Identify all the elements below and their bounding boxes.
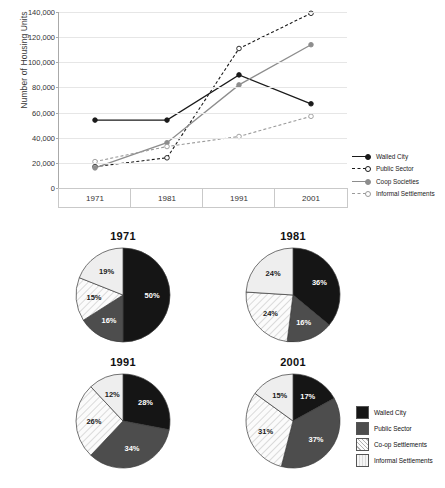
y-axis-tick-label: 140,000 bbox=[28, 8, 55, 17]
y-axis-tick-mark bbox=[56, 87, 59, 88]
pie-svg: 50%16%15%19% bbox=[48, 244, 198, 346]
legend-marker-icon bbox=[352, 152, 374, 161]
legend-swatch-icon bbox=[356, 454, 369, 467]
x-axis-tick-label: 1971 bbox=[58, 188, 131, 208]
figure-root: Number of Housing Units 020,00040,00060,… bbox=[0, 0, 445, 488]
pie-legend-label: Co-op Settlements bbox=[374, 441, 427, 448]
gridline bbox=[59, 163, 347, 164]
pie-title: 1991 bbox=[48, 355, 198, 370]
pie-title: 1971 bbox=[48, 229, 198, 244]
pie-slice-value-label: 15% bbox=[272, 391, 287, 400]
legend-label: Informal Settlements bbox=[376, 190, 435, 197]
data-point bbox=[93, 118, 98, 123]
legend-marker-icon bbox=[352, 164, 374, 173]
pie-legend-label: Walled City bbox=[374, 409, 406, 416]
data-point bbox=[93, 166, 98, 171]
data-point bbox=[237, 46, 242, 51]
pie-title: 1981 bbox=[218, 229, 368, 244]
line-series-svg bbox=[59, 12, 347, 188]
pie-slice-value-label: 31% bbox=[258, 427, 273, 436]
pie-chart-1991: 199128%34%26%12% bbox=[48, 355, 198, 473]
gridline bbox=[59, 113, 347, 114]
legend-item-coop-societies[interactable]: Coop Societies bbox=[352, 175, 445, 188]
legend-marker-icon bbox=[352, 177, 374, 186]
y-axis-tick-label: 40,000 bbox=[32, 133, 55, 142]
pie-svg: 17%37%31%15% bbox=[218, 370, 368, 472]
pie-legend-label: Informal Settlements bbox=[374, 457, 433, 464]
pie-slice-value-label: 12% bbox=[105, 390, 120, 399]
legend-item-informal-settlements[interactable]: Informal Settlements bbox=[352, 188, 445, 201]
pie-slice-value-label: 28% bbox=[138, 398, 153, 407]
pie-slice-value-label: 19% bbox=[99, 267, 114, 276]
legend-label: Walled City bbox=[376, 153, 408, 160]
gridline bbox=[59, 62, 347, 63]
legend-label: Coop Societies bbox=[376, 178, 419, 185]
y-axis-tick-label: 20,000 bbox=[32, 158, 55, 167]
y-axis-tick-mark bbox=[56, 113, 59, 114]
pie-slice-value-label: 36% bbox=[312, 278, 327, 287]
pie-svg: 36%16%24%24% bbox=[218, 244, 368, 346]
pie-slice-value-label: 16% bbox=[296, 318, 311, 327]
pie-legend-item-walled-city[interactable]: Walled City bbox=[356, 404, 445, 420]
pie-chart-legend: Walled CityPublic SectorCo-op Settlement… bbox=[356, 404, 445, 468]
pie-slice-value-label: 50% bbox=[145, 291, 160, 300]
data-point bbox=[309, 42, 314, 47]
line-series-informal-settlements bbox=[95, 116, 311, 161]
line-chart-plot-area: 020,00040,00060,00080,000100,000120,0001… bbox=[58, 12, 347, 188]
y-axis-tick-label: 120,000 bbox=[28, 33, 55, 42]
pie-svg: 28%34%26%12% bbox=[48, 370, 198, 472]
pie-legend-item-public-sector[interactable]: Public Sector bbox=[356, 420, 445, 436]
y-axis-tick-label: 100,000 bbox=[28, 58, 55, 67]
pie-slice-value-label: 26% bbox=[86, 417, 101, 426]
y-axis-tick-mark bbox=[56, 62, 59, 63]
pie-title: 2001 bbox=[218, 355, 368, 370]
pie-chart-2001: 200117%37%31%15% bbox=[218, 355, 368, 473]
y-axis-tick-label: 0 bbox=[51, 184, 55, 193]
legend-item-walled-city[interactable]: Walled City bbox=[352, 150, 445, 163]
pie-legend-item-informal-settlements[interactable]: Informal Settlements bbox=[356, 452, 445, 468]
x-axis-tick-label: 1981 bbox=[130, 188, 203, 208]
data-point bbox=[309, 102, 314, 107]
line-chart-legend: Walled CityPublic SectorCoop SocietiesIn… bbox=[352, 150, 445, 200]
pie-chart-1971: 197150%16%15%19% bbox=[48, 229, 198, 347]
legend-swatch-icon bbox=[356, 406, 369, 419]
gridline bbox=[59, 37, 347, 38]
y-axis-tick-mark bbox=[56, 163, 59, 164]
x-axis-tick-label: 1991 bbox=[202, 188, 275, 208]
data-point bbox=[165, 118, 170, 123]
pie-slice-value-label: 16% bbox=[101, 316, 116, 325]
legend-marker-icon bbox=[352, 189, 374, 198]
gridline bbox=[59, 138, 347, 139]
y-axis-tick-mark bbox=[56, 12, 59, 13]
pie-chart-1981: 198136%16%24%24% bbox=[218, 229, 368, 347]
data-point bbox=[165, 144, 170, 149]
pie-slice-value-label: 24% bbox=[266, 269, 281, 278]
pie-slice-value-label: 34% bbox=[124, 444, 139, 453]
pie-slice-value-label: 17% bbox=[300, 392, 315, 401]
legend-swatch-icon bbox=[356, 438, 369, 451]
y-axis-tick-mark bbox=[56, 37, 59, 38]
gridline bbox=[59, 12, 347, 13]
x-axis-tick-label: 2001 bbox=[274, 188, 348, 208]
line-chart: Number of Housing Units 020,00040,00060,… bbox=[0, 0, 445, 222]
legend-item-public-sector[interactable]: Public Sector bbox=[352, 163, 445, 176]
pie-slice-value-label: 24% bbox=[263, 309, 278, 318]
y-axis-tick-mark bbox=[56, 138, 59, 139]
gridline bbox=[59, 87, 347, 88]
pie-legend-label: Public Sector bbox=[374, 425, 412, 432]
legend-label: Public Sector bbox=[376, 165, 414, 172]
y-axis-tick-label: 80,000 bbox=[32, 83, 55, 92]
data-point bbox=[165, 156, 170, 161]
data-point bbox=[309, 114, 314, 119]
pie-slice-value-label: 37% bbox=[308, 435, 323, 444]
y-axis-tick-label: 60,000 bbox=[32, 108, 55, 117]
pie-slice-value-label: 15% bbox=[86, 293, 101, 302]
data-point bbox=[237, 73, 242, 78]
legend-swatch-icon bbox=[356, 422, 369, 435]
pie-legend-item-co-op-settlements[interactable]: Co-op Settlements bbox=[356, 436, 445, 452]
